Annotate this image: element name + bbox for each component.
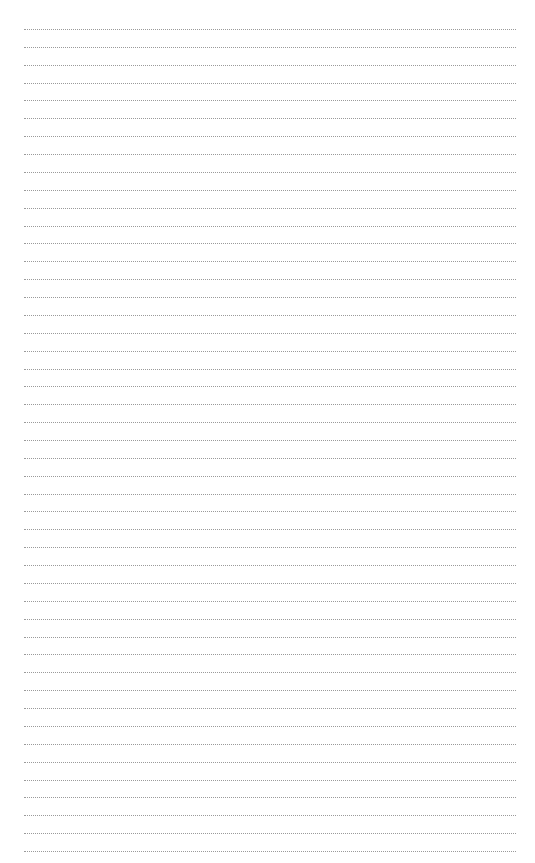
dotted-rule-line — [24, 100, 516, 101]
dotted-rule-line — [24, 279, 516, 280]
dotted-rule-line — [24, 762, 516, 763]
dotted-rule-line — [24, 261, 516, 262]
dotted-rule-line — [24, 386, 516, 387]
dotted-rule-line — [24, 208, 516, 209]
dotted-rule-line — [24, 422, 516, 423]
dotted-rule-line — [24, 243, 516, 244]
dotted-rule-line — [24, 547, 516, 548]
dotted-rule-line — [24, 29, 516, 30]
dotted-rule-line — [24, 118, 516, 119]
dotted-rule-line — [24, 65, 516, 66]
dotted-rule-line — [24, 494, 516, 495]
dotted-rule-line — [24, 583, 516, 584]
dotted-rule-line — [24, 190, 516, 191]
dotted-rule-line — [24, 172, 516, 173]
dotted-rule-line — [24, 690, 516, 691]
dotted-rule-line — [24, 744, 516, 745]
dotted-rule-line — [24, 726, 516, 727]
dotted-rule-line — [24, 47, 516, 48]
dotted-rule-line — [24, 851, 516, 852]
dotted-rule-line — [24, 511, 516, 512]
dotted-rule-line — [24, 369, 516, 370]
dotted-rule-line — [24, 529, 516, 530]
dotted-rule-line — [24, 619, 516, 620]
dotted-rule-line — [24, 458, 516, 459]
dotted-rule-line — [24, 476, 516, 477]
dotted-rule-line — [24, 333, 516, 334]
dotted-rule-line — [24, 672, 516, 673]
dotted-rule-line — [24, 440, 516, 441]
dotted-rule-line — [24, 601, 516, 602]
dotted-rule-line — [24, 780, 516, 781]
dotted-rule-line — [24, 404, 516, 405]
dotted-rule-line — [24, 637, 516, 638]
dotted-rule-line — [24, 708, 516, 709]
dotted-rule-line — [24, 833, 516, 834]
dotted-rule-line — [24, 797, 516, 798]
dotted-rule-line — [24, 315, 516, 316]
dotted-rule-line — [24, 565, 516, 566]
dotted-rule-line — [24, 226, 516, 227]
dotted-rule-line — [24, 154, 516, 155]
dotted-rule-line — [24, 83, 516, 84]
dotted-rule-line — [24, 136, 516, 137]
dotted-rule-line — [24, 654, 516, 655]
dotted-rule-line — [24, 297, 516, 298]
lined-paper-page — [0, 0, 535, 863]
dotted-rule-line — [24, 815, 516, 816]
dotted-rule-line — [24, 351, 516, 352]
